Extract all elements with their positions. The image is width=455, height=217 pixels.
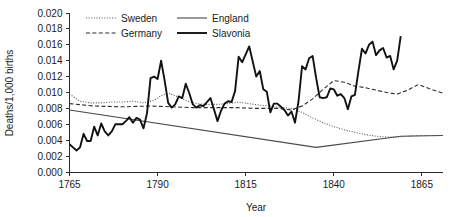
series-line-germany [70, 81, 444, 110]
y-tick-label: 0.008 [37, 103, 62, 114]
y-axis-ticks: 0.0000.0020.0040.0060.0080.0100.0120.014… [37, 8, 69, 178]
y-tick-label: 0.006 [37, 119, 62, 130]
x-tick-label: 1865 [411, 179, 434, 190]
legend: Sweden England Germany Slavonia [86, 13, 251, 39]
x-tick-label: 1840 [323, 179, 346, 190]
legend-item-england: England [177, 13, 249, 24]
y-tick-label: 0.000 [37, 167, 62, 178]
x-tick-label: 1815 [235, 179, 258, 190]
legend-item-sweden: Sweden [86, 13, 157, 24]
line-chart: 0.0000.0020.0040.0060.0080.0100.0120.014… [0, 0, 455, 217]
x-axis-ticks: 17651790181518401865 [58, 172, 433, 190]
y-tick-label: 0.012 [37, 71, 62, 82]
y-tick-label: 0.010 [37, 87, 62, 98]
y-tick-label: 0.004 [37, 135, 62, 146]
x-tick-label: 1790 [146, 179, 169, 190]
y-tick-label: 0.002 [37, 151, 62, 162]
series-line-slavonia [70, 36, 401, 150]
legend-item-germany: Germany [86, 28, 162, 39]
y-tick-label: 0.020 [37, 8, 62, 19]
chart-figure: 0.0000.0020.0040.0060.0080.0100.0120.014… [0, 0, 455, 217]
y-tick-label: 0.014 [37, 55, 62, 66]
series-lines [70, 36, 444, 150]
y-tick-label: 0.018 [37, 23, 62, 34]
legend-label-germany: Germany [121, 28, 162, 39]
y-tick-label: 0.016 [37, 39, 62, 50]
x-tick-label: 1765 [58, 179, 81, 190]
y-axis-title: Deaths/1,000 births [4, 50, 15, 137]
legend-label-england: England [212, 13, 249, 24]
series-line-sweden [70, 93, 444, 137]
series-line-england [70, 110, 444, 147]
legend-item-slavonia: Slavonia [177, 28, 251, 39]
legend-label-sweden: Sweden [121, 13, 157, 24]
x-axis-title: Year [246, 202, 267, 213]
legend-label-slavonia: Slavonia [212, 28, 251, 39]
